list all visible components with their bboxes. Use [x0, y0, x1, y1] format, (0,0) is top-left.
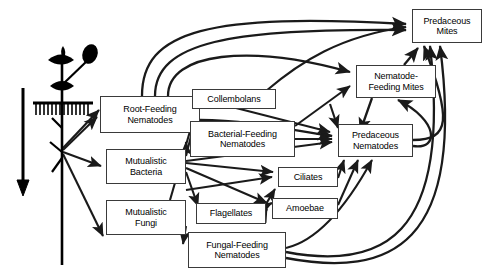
node-label-line1: Mutualistic	[125, 207, 166, 218]
edge-cross-3	[186, 177, 272, 190]
node-label-line1: Predaceous	[423, 16, 470, 27]
edge-bacteria-to-ciliates	[186, 163, 273, 172]
node-label-line2: Feeding Mites	[368, 82, 423, 93]
plant-leaf-mid-icon	[50, 81, 74, 91]
node-mutualistic-bacteria[interactable]: Mutualistic Bacteria	[106, 149, 186, 184]
node-label-line1: Amoebae	[286, 203, 324, 214]
energy-arrow-head	[17, 180, 29, 196]
node-ciliates[interactable]: Ciliates	[278, 167, 338, 187]
node-label-line1: Collembolans	[207, 94, 260, 105]
node-label-line1: Fungal-Feeding	[206, 240, 268, 251]
node-label-line2: Mites	[423, 26, 470, 37]
node-label-line2: Nematodes	[208, 139, 277, 150]
edge-nematode-feeding-mites-to-predaceous-mites	[404, 48, 418, 65]
node-predaceous-nematodes[interactable]: Predaceous Nematodes	[338, 124, 413, 157]
node-nematode-feeding-mites[interactable]: Nematode- Feeding Mites	[356, 65, 436, 98]
edge-bacterial-feeding-to-nematode-feeding-mites	[295, 86, 350, 126]
node-label-line2: Nematodes	[123, 115, 176, 126]
node-predaceous-mites[interactable]: Predaceous Mites	[412, 9, 482, 43]
plant-leaf-tip-icon	[61, 46, 65, 58]
node-label-line1: Flagellates	[210, 208, 252, 219]
edge-bacteria-to-amoebae	[186, 168, 267, 203]
node-label-line2: Nematodes	[206, 250, 268, 261]
node-collembolans[interactable]: Collembolans	[192, 89, 276, 109]
node-label-line1: Root-Feeding	[123, 104, 176, 115]
root-hair-3	[52, 158, 62, 172]
root-hair-2	[50, 142, 62, 152]
node-label-line2: Bacteria	[125, 167, 166, 178]
root-hair-1	[52, 118, 62, 128]
plant-leaf-top-icon	[48, 55, 74, 65]
node-mutualistic-fungi[interactable]: Mutualistic Fungi	[106, 200, 186, 235]
node-label-line1: Mutualistic	[125, 156, 166, 167]
node-label-line1: Bacterial-Feeding	[208, 129, 277, 140]
node-fungal-feeding-nematodes[interactable]: Fungal-Feeding Nematodes	[188, 232, 286, 268]
soil-food-web-diagram: Root-Feeding Nematodes Collembolans Bact…	[0, 0, 488, 279]
node-root-feeding-nematodes[interactable]: Root-Feeding Nematodes	[100, 96, 200, 133]
node-bacterial-feeding-nematodes[interactable]: Bacterial-Feeding Nematodes	[190, 121, 295, 157]
plant-illustration	[0, 0, 140, 279]
edge-ciliates-to-predaceous-nematodes	[338, 160, 344, 178]
node-label-line2: Nematodes	[352, 141, 399, 152]
node-label-line2: Fungi	[125, 218, 166, 229]
node-label-line1: Ciliates	[294, 172, 323, 183]
node-label-line1: Nematode-	[368, 71, 423, 82]
edge-flagellates-to-amoebae	[266, 209, 267, 211]
plant-bud-icon	[80, 42, 101, 66]
edge-cross-1	[330, 104, 338, 128]
node-amoebae[interactable]: Amoebae	[272, 198, 338, 219]
node-flagellates[interactable]: Flagellates	[196, 203, 266, 224]
node-label-line1: Predaceous	[352, 130, 399, 141]
